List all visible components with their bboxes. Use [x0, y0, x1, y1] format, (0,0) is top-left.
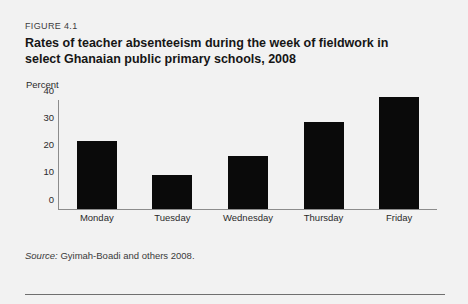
y-axis-tick-label: 20: [43, 140, 54, 150]
figure-inner: FIGURE 4.1 Rates of teacher absenteeism …: [25, 0, 445, 304]
y-axis-tick-label: 40: [43, 86, 54, 96]
bar[interactable]: [228, 156, 268, 209]
x-axis-tick-label: Monday: [80, 213, 114, 223]
chart-plot-area: 010203040 MondayTuesdayWednesdayThursday…: [58, 100, 437, 210]
bar[interactable]: [304, 122, 344, 209]
bar[interactable]: [152, 175, 192, 209]
y-axis-tick-label: 30: [43, 113, 54, 123]
bar-group: MondayTuesdayWednesdayThursdayFriday: [59, 100, 437, 209]
x-axis-tick-label: Thursday: [304, 213, 344, 223]
bar-slot: Thursday: [286, 100, 362, 209]
x-axis-tick-label: Wednesday: [223, 213, 273, 223]
bar-slot: Friday: [361, 100, 437, 209]
y-axis-title: Percent: [26, 79, 445, 90]
x-axis-tick-label: Friday: [386, 213, 412, 223]
figure-title: Rates of teacher absenteeism during the …: [25, 35, 425, 67]
source-citation: Gyimah-Boadi and others 2008.: [58, 250, 195, 261]
x-axis-tick-label: Tuesday: [154, 213, 190, 223]
bar[interactable]: [77, 141, 117, 209]
bar-slot: Wednesday: [210, 100, 286, 209]
y-axis-tick-label: 0: [49, 195, 54, 205]
source-note: Source: Gyimah-Boadi and others 2008.: [25, 250, 445, 261]
bar-slot: Monday: [59, 100, 135, 209]
y-axis-tick-label: 10: [43, 168, 54, 178]
figure-number: FIGURE 4.1: [25, 21, 445, 31]
bar[interactable]: [379, 97, 419, 209]
chart-plot-wrapper: 010203040 MondayTuesdayWednesdayThursday…: [25, 92, 437, 224]
figure-block: FIGURE 4.1 Rates of teacher absenteeism …: [0, 0, 468, 304]
source-label: Source:: [25, 250, 58, 261]
bottom-divider: [25, 294, 445, 295]
bar-slot: Tuesday: [135, 100, 211, 209]
